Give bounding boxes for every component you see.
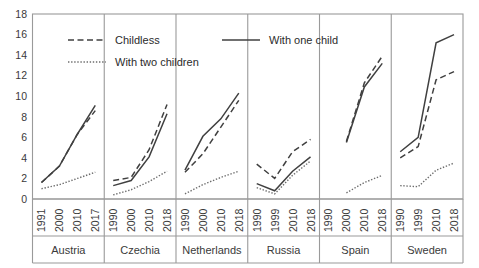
series-line-solid (346, 63, 382, 142)
x-axis-tick-label: 2010 (430, 208, 442, 232)
y-axis-tick-label: 14 (15, 49, 27, 61)
x-axis-tick-label: 2010 (143, 208, 155, 232)
x-axis-tick-label: 2018 (448, 208, 460, 232)
series-line-dashed (185, 100, 239, 172)
y-axis-tick-label: 0 (21, 193, 27, 205)
legend: ChildlessWith one childWith two children (68, 34, 338, 68)
panel-sweden: 1990199920102018Sweden (391, 14, 460, 263)
panel-russia: 1990199920102018Russia (248, 14, 317, 263)
legend-label: Childless (115, 34, 160, 46)
legend-label: With two children (115, 56, 199, 68)
series-line-dashed (346, 56, 382, 141)
chart-container: 0246810121416181991200020102017Austria19… (0, 0, 479, 268)
panel-spain: 1990200020102018Spain (320, 14, 389, 263)
y-axis-tick-label: 10 (15, 90, 27, 102)
x-axis-tick-label: 1999 (412, 208, 424, 232)
series-line-dashed (257, 139, 311, 178)
x-axis-tick-label: 2018 (305, 208, 317, 232)
multi-panel-line-chart: 0246810121416181991200020102017Austria19… (0, 0, 479, 268)
x-axis-tick-label: 2000 (125, 208, 137, 232)
series-line-dotted (346, 175, 382, 192)
panel-netherlands: 1990200020102018Netherlands (176, 14, 245, 263)
x-axis-tick-label: 1991 (35, 208, 47, 232)
panel-title: Czechia (120, 244, 161, 256)
legend-label: With one child (269, 34, 338, 46)
x-axis-tick-label: 2010 (287, 208, 299, 232)
series-line-solid (257, 157, 311, 191)
x-axis-tick-label: 2017 (89, 208, 101, 232)
series-line-solid (400, 35, 454, 152)
panel-czechia: 1990200020102018Czechia (104, 14, 173, 263)
panel-title: Russia (267, 244, 302, 256)
y-axis-tick-label: 6 (21, 131, 27, 143)
panel-austria: 1991200020102017Austria (35, 105, 101, 256)
series-line-dashed (41, 111, 95, 183)
series-line-dotted (400, 163, 454, 187)
series-line-solid (41, 105, 95, 182)
x-axis-tick-label: 2000 (340, 208, 352, 232)
x-axis-tick-label: 2018 (161, 208, 173, 232)
x-axis-tick-label: 1990 (322, 208, 334, 232)
x-axis-tick-label: 2018 (233, 208, 245, 232)
series-line-solid (185, 93, 239, 170)
x-axis-tick-label: 1990 (251, 208, 263, 232)
y-axis-tick-label: 2 (21, 172, 27, 184)
x-axis-tick-label: 2010 (71, 208, 83, 232)
x-axis-tick-label: 2010 (215, 208, 227, 232)
y-axis-tick-label: 12 (15, 69, 27, 81)
panel-title: Netherlands (182, 244, 242, 256)
x-axis-tick-label: 2000 (197, 208, 209, 232)
panel-title: Austria (51, 244, 86, 256)
panel-title: Spain (341, 244, 369, 256)
x-axis-tick-label: 2000 (53, 208, 65, 232)
x-axis-tick-label: 1999 (269, 208, 281, 232)
x-axis-tick-label: 2018 (376, 208, 388, 232)
x-axis-tick-label: 2010 (358, 208, 370, 232)
y-axis-tick-label: 4 (21, 152, 27, 164)
series-line-dotted (185, 171, 239, 194)
x-axis-tick-label: 1990 (394, 208, 406, 232)
y-axis-tick-label: 18 (15, 8, 27, 20)
x-axis-tick-label: 1990 (179, 208, 191, 232)
panel-title: Sweden (407, 244, 447, 256)
y-axis-tick-label: 8 (21, 111, 27, 123)
y-axis-tick-label: 16 (15, 28, 27, 40)
x-axis-tick-label: 1990 (107, 208, 119, 232)
